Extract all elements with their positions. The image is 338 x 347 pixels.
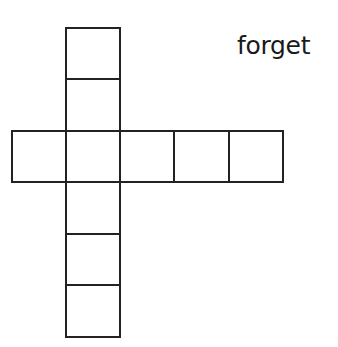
grid-cell-v1[interactable] bbox=[66, 28, 120, 79]
grid-cell-h2-shared[interactable] bbox=[66, 131, 120, 182]
grid-cell-h5[interactable] bbox=[229, 131, 283, 182]
clue-word: forget bbox=[237, 33, 310, 58]
grid-cell-v5[interactable] bbox=[66, 234, 120, 285]
grid-cell-v2[interactable] bbox=[66, 79, 120, 131]
grid-cell-h4[interactable] bbox=[174, 131, 229, 182]
grid-cell-h1[interactable] bbox=[12, 131, 66, 182]
grid-cell-v4[interactable] bbox=[66, 182, 120, 234]
grid-cell-v6[interactable] bbox=[66, 285, 120, 337]
grid-cell-h3[interactable] bbox=[120, 131, 174, 182]
